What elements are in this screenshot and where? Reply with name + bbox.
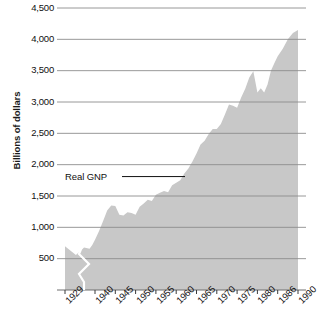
x-axis-tick-label: 1940 (93, 284, 115, 306)
x-axis-tick-label: 1955 (154, 284, 176, 306)
x-axis-tick-label: 1990 (296, 284, 318, 306)
real-gnp-area-chart: Billions of dollars 4,5004,0003,5003,000… (0, 0, 321, 333)
x-axis-tick-label: 1960 (174, 284, 196, 306)
x-axis-tick-label: 1975 (235, 284, 257, 306)
x-axis-tick-label: 1970 (215, 284, 237, 306)
x-axis-tick-label: 1965 (195, 284, 217, 306)
x-axis-tick-label: 1986 (276, 284, 298, 306)
x-axis-tick-labels: 1929194019451950195519601965197019751980… (0, 0, 321, 333)
x-axis-tick-label: 1929 (63, 284, 85, 306)
x-axis-tick-label: 1980 (255, 284, 277, 306)
x-axis-tick-label: 1950 (134, 284, 156, 306)
x-axis-tick-label: 1945 (113, 284, 135, 306)
